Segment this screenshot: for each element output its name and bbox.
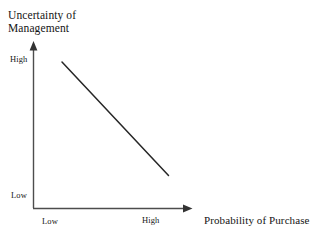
x-axis-tick-low: Low	[42, 216, 58, 226]
y-axis-tick-low: Low	[11, 190, 27, 200]
y-axis-arrow-icon	[30, 41, 38, 51]
x-axis-title: Probability of Purchase	[204, 214, 310, 227]
x-axis-arrow-icon	[183, 205, 193, 213]
x-axis-tick-high: High	[142, 215, 159, 225]
data-series-line	[62, 62, 169, 176]
chart-figure: Uncertainty of Management High Low Low H…	[0, 0, 315, 237]
plot-area	[0, 0, 315, 237]
y-axis-tick-high: High	[10, 54, 27, 64]
